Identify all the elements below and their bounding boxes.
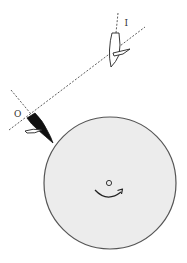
- incoming-tool-axis-line: [116, 13, 118, 33]
- outgoing-tool-label: O: [14, 109, 21, 119]
- incoming-tool-body: [109, 33, 120, 67]
- incoming-tool: [109, 33, 130, 67]
- outgoing-tool-fin: [25, 129, 42, 133]
- outgoing-tool-body: [27, 113, 53, 143]
- rotating-disk: [44, 117, 176, 249]
- outgoing-tool: [25, 113, 53, 143]
- incoming-tool-label: I: [125, 18, 129, 28]
- tangent-reference-line: [9, 27, 145, 130]
- diagram-canvas: I O: [0, 0, 187, 263]
